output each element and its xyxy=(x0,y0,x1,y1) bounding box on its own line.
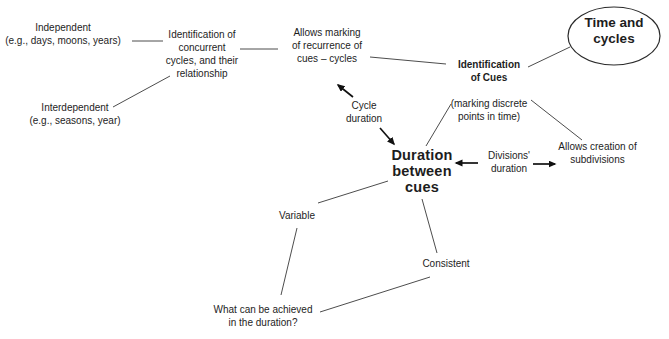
node-cycle-duration: Cycle duration xyxy=(334,99,394,125)
node-time-cycles: Time and cycles xyxy=(568,15,660,47)
identification-cues-subtitle: (marking discrete points in time) xyxy=(438,97,540,123)
arrow-cycle-duration-to-duration xyxy=(380,128,394,144)
node-interdependent: Interdependent (e.g., seasons, year) xyxy=(12,101,138,127)
node-variable: Variable xyxy=(266,209,328,222)
edge-variable-achieved xyxy=(281,228,297,295)
node-marking-recurrence: Allows marking of recurrence of cues – c… xyxy=(283,26,371,65)
node-divisions-duration: Divisions' duration xyxy=(478,149,540,175)
edge-duration-consistent xyxy=(422,199,437,253)
node-identification-cues: Identification of Cues (marking discrete… xyxy=(438,45,540,136)
node-concurrent-cycles: Identification of concurrent cycles, and… xyxy=(157,28,247,80)
node-what-achieved: What can be achieved in the duration? xyxy=(205,303,321,329)
concept-map-canvas: Independent (e.g., days, moons, years) I… xyxy=(0,0,669,339)
node-consistent: Consistent xyxy=(412,257,480,270)
edge-duration-variable xyxy=(318,181,388,203)
node-allows-subdivisions: Allows creation of subdivisions xyxy=(550,140,645,166)
edge-marking-identification-cues xyxy=(370,57,446,64)
edge-consistent-achieved xyxy=(320,277,430,312)
identification-cues-title: Identification of Cues xyxy=(438,58,540,84)
node-independent: Independent (e.g., days, moons, years) xyxy=(0,21,126,47)
arrow-cycle-duration-to-marking xyxy=(338,85,353,97)
node-duration-between-cues: Duration between cues xyxy=(382,147,462,195)
